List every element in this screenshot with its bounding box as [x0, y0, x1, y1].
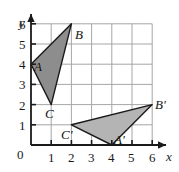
y-tick-label-5: 5 — [19, 38, 26, 51]
x-tick-label-4: 4 — [108, 151, 115, 164]
y-tick-label-3: 3 — [19, 78, 26, 91]
vertex-label-c: C — [45, 107, 54, 120]
x-axis-label: x — [166, 150, 172, 163]
origin-tick-label: 0 — [17, 148, 24, 161]
x-axis — [31, 140, 166, 149]
x-tick-label-2: 2 — [68, 151, 75, 164]
coordinate-plane-figure: y x 0 1 2 3 4 5 6 1 2 3 4 5 6 A B C A' B… — [0, 0, 179, 172]
y-tick-label-2: 2 — [19, 99, 26, 112]
vertex-label-c-prime: C' — [61, 128, 72, 141]
y-tick-label-6: 6 — [19, 18, 26, 31]
y-tick-label-4: 4 — [19, 58, 26, 71]
x-tick-label-6: 6 — [149, 151, 156, 164]
y-tick-label-1: 1 — [19, 119, 26, 132]
x-tick-label-5: 5 — [128, 151, 135, 164]
y-axis — [27, 14, 36, 145]
vertex-label-a: A — [34, 60, 42, 73]
x-tick-label-1: 1 — [48, 151, 55, 164]
vertex-label-b: B — [75, 28, 83, 41]
plot-canvas — [0, 0, 179, 172]
vertex-label-b-prime: B' — [155, 98, 166, 111]
vertex-label-a-prime: A' — [114, 133, 125, 146]
x-tick-label-3: 3 — [88, 151, 95, 164]
